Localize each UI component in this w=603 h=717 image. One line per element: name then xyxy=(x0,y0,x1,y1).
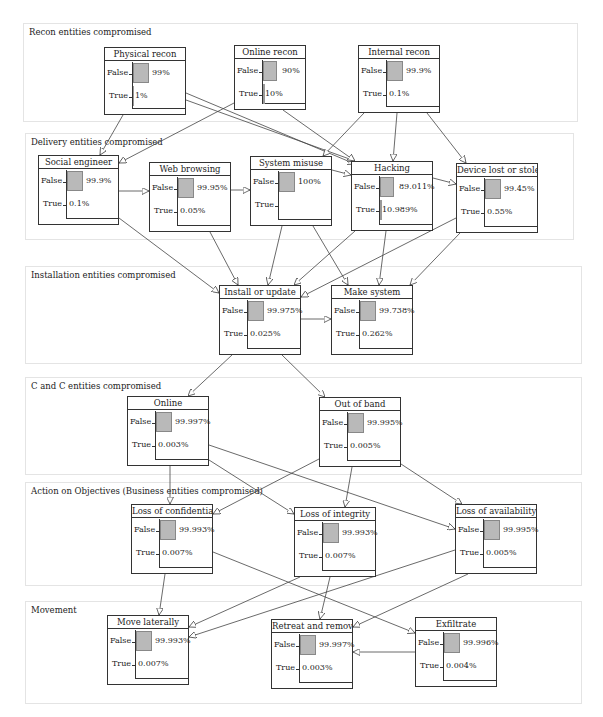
node-title: Internal recon xyxy=(359,46,439,59)
false-probability-bar xyxy=(133,63,149,83)
edge-online-recon-to-hacking xyxy=(283,110,355,161)
true-state-label: True xyxy=(112,659,131,668)
true-percentage: 0.004% xyxy=(446,661,477,670)
node-online[interactable]: OnlineFalseTrue99.997%0.003% xyxy=(127,396,209,466)
false-percentage: 99.9% xyxy=(406,66,431,75)
true-state-label: True xyxy=(299,551,318,560)
edge-out-of-band-to-loss-confidentiality xyxy=(213,459,319,514)
true-percentage: 0.05% xyxy=(180,206,205,215)
false-percentage: 99.993% xyxy=(155,636,191,645)
false-percentage: 99.993% xyxy=(179,525,215,534)
true-state-label: True xyxy=(154,206,173,215)
axis-tick xyxy=(129,97,132,98)
false-probability-bar xyxy=(248,301,264,321)
edge-web-browsing-to-install-update xyxy=(210,232,238,285)
axis-tick xyxy=(275,183,278,184)
edge-hacking-to-device-lost xyxy=(433,178,456,184)
axis-tick xyxy=(440,667,443,668)
false-percentage: 99% xyxy=(152,68,170,77)
node-loss-integrity[interactable]: Loss of integrityFalseTrue99.993%0.007% xyxy=(294,507,376,577)
node-web-browsing[interactable]: Web browsingFalseTrue99.95%0.05% xyxy=(149,162,231,232)
true-percentage: 10.989% xyxy=(382,205,418,214)
false-probability-bar xyxy=(160,520,176,540)
axis-tick xyxy=(296,669,299,670)
true-state-label: True xyxy=(239,89,258,98)
node-title: Loss of confidentiality xyxy=(132,505,212,518)
true-percentage: 0.003% xyxy=(302,663,333,672)
false-state-label: False xyxy=(134,525,155,534)
false-probability-bar xyxy=(300,635,316,655)
node-loss-availability[interactable]: Loss of availabilityFalseTrue99.995%0.00… xyxy=(455,504,537,574)
node-retreat-removal[interactable]: Retreat and removalFalseTrue99.997%0.003… xyxy=(271,619,353,689)
axis-tick xyxy=(129,74,132,75)
axis-tick xyxy=(319,534,322,535)
axis-tick xyxy=(356,335,359,336)
false-percentage: 89.011% xyxy=(399,182,435,191)
edge-internal-recon-to-system-misuse xyxy=(323,113,364,156)
node-online-recon[interactable]: Online reconFalseTrue90%10% xyxy=(234,45,306,110)
false-state-label: False xyxy=(361,66,382,75)
axis-tick xyxy=(296,646,299,647)
axis-tick xyxy=(376,211,379,212)
node-system-misuse[interactable]: System misuseFalseTrue100% xyxy=(250,156,332,226)
edge-system-misuse-to-hacking xyxy=(332,170,351,175)
false-state-label: False xyxy=(130,417,151,426)
node-exfiltrate[interactable]: ExfiltrateFalseTrue99.996%0.004% xyxy=(415,617,497,687)
false-probability-bar xyxy=(323,523,339,543)
axis-tick xyxy=(383,72,386,73)
node-install-update[interactable]: Install or updateFalseTrue99.975%0.025% xyxy=(219,285,301,355)
edge-out-of-band-to-loss-integrity xyxy=(345,467,352,507)
edge-install-update-to-out-of-band xyxy=(282,355,325,397)
edge-physical-recon-to-social-engineer xyxy=(100,115,123,155)
true-state-label: True xyxy=(420,661,439,670)
false-probability-bar xyxy=(67,171,83,191)
true-percentage: 0.007% xyxy=(162,548,193,557)
node-title: Online recon xyxy=(235,46,305,59)
true-state-label: True xyxy=(324,441,343,450)
axis-tick xyxy=(152,423,155,424)
false-state-label: False xyxy=(110,636,131,645)
false-percentage: 99.995% xyxy=(367,418,403,427)
true-percentage: 0.003% xyxy=(158,440,189,449)
true-state-label: True xyxy=(43,199,62,208)
edge-hacking-to-install-update xyxy=(294,231,355,285)
axis-tick xyxy=(440,644,443,645)
false-state-label: False xyxy=(253,177,274,186)
node-title: Move laterally xyxy=(108,616,188,629)
axis-tick xyxy=(132,642,135,643)
false-probability-bar xyxy=(484,520,500,540)
node-title: Online xyxy=(128,397,208,410)
node-make-system[interactable]: Make systemFalseTrue99.738%0.262% xyxy=(331,285,413,355)
node-hacking[interactable]: HackingFalseTrue89.011%10.989% xyxy=(351,161,433,231)
edge-out-of-band-to-loss-availability xyxy=(401,464,462,504)
false-state-label: False xyxy=(418,638,439,647)
node-title: Out of band xyxy=(320,398,400,411)
node-title: Exfiltrate xyxy=(416,618,496,631)
false-state-label: False xyxy=(354,182,375,191)
node-title: Hacking xyxy=(352,162,432,175)
node-title: Retreat and removal xyxy=(272,620,352,633)
false-percentage: 99.975% xyxy=(267,306,303,315)
true-percentage: 0.005% xyxy=(486,548,517,557)
node-title: Web browsing xyxy=(150,163,230,176)
node-physical-recon[interactable]: Physical reconFalseTrue99%1% xyxy=(104,47,186,115)
axis-tick xyxy=(63,205,66,206)
axis-tick xyxy=(275,206,278,207)
node-internal-recon[interactable]: Internal reconFalseTrue99.9%0.1% xyxy=(358,45,440,113)
node-device-lost[interactable]: Device lost or stolenFalseTrue99.45%0.55… xyxy=(456,163,538,233)
node-loss-confidentiality[interactable]: Loss of confidentialityFalseTrue99.993%0… xyxy=(131,504,213,574)
false-percentage: 99.45% xyxy=(504,184,535,193)
axis-tick xyxy=(63,182,66,183)
false-probability-bar xyxy=(348,413,364,433)
node-out-of-band[interactable]: Out of bandFalseTrue99.995%0.005% xyxy=(319,397,401,467)
true-state-label: True xyxy=(224,329,243,338)
true-percentage: 0.007% xyxy=(325,551,356,560)
node-move-laterally[interactable]: Move laterallyFalseTrue99.993%0.007% xyxy=(107,615,189,685)
true-state-label: True xyxy=(255,200,274,209)
axis-tick xyxy=(319,557,322,558)
node-social-engineer[interactable]: Social engineerFalseTrue99.9%0.1% xyxy=(38,155,119,225)
false-probability-bar xyxy=(380,177,394,197)
node-title: Loss of integrity xyxy=(295,508,375,521)
true-probability-bar xyxy=(133,86,134,106)
node-title: Loss of availability xyxy=(456,505,536,518)
